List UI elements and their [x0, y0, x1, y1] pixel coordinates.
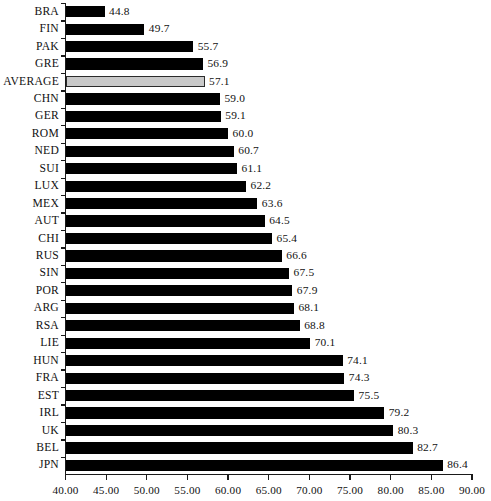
bar-row: SIN67.5: [0, 265, 491, 282]
x-axis-tick-label: 75.00: [337, 485, 363, 496]
bar-row: GER59.1: [0, 108, 491, 125]
bar-value-label: 57.1: [209, 76, 230, 87]
category-label-text: FRA: [36, 372, 59, 384]
y-axis-tick: [61, 300, 65, 301]
bar-row: AVERAGE57.1: [0, 73, 491, 90]
bar-value-label: 59.1: [225, 111, 246, 122]
bar-value-label: 74.1: [347, 355, 368, 366]
y-axis-tick: [61, 335, 65, 336]
bar-fra: [66, 373, 345, 384]
y-axis-tick: [61, 387, 65, 388]
category-label-text: IRL: [40, 407, 59, 419]
y-axis-tick: [61, 125, 65, 126]
category-label-text: NED: [34, 146, 59, 158]
bar-value-label: 82.7: [417, 442, 438, 453]
bar-value-label: 65.4: [277, 233, 298, 244]
category-label-bel: BEL: [0, 439, 59, 456]
category-label-mex: MEX: [0, 195, 59, 212]
bar-row: LIE70.1: [0, 335, 491, 352]
y-axis-tick: [61, 108, 65, 109]
x-axis-tick-label: 40.00: [52, 485, 78, 496]
bar-row: NED60.7: [0, 143, 491, 160]
category-label-text: AUT: [34, 215, 59, 227]
category-label-sui: SUI: [0, 160, 59, 177]
y-axis-tick: [61, 178, 65, 179]
category-label-text: CHI: [38, 233, 59, 245]
bar-rom: [66, 128, 229, 139]
bar-bra: [66, 6, 105, 17]
y-axis-tick: [61, 369, 65, 370]
category-label-text: JPN: [39, 460, 59, 472]
plot-area: BRA44.8FIN49.7PAK55.7GRE56.9AVERAGE57.1C…: [0, 0, 491, 501]
bar-value-label: 63.6: [262, 198, 283, 209]
bar-value-label: 60.0: [233, 128, 254, 139]
bar-value-label: 44.8: [109, 6, 130, 17]
category-label-text: ROM: [32, 128, 59, 140]
category-label-bra: BRA: [0, 3, 59, 20]
y-axis-tick: [61, 73, 65, 74]
x-axis-tick: [309, 475, 310, 480]
y-axis-tick: [61, 55, 65, 56]
bar-row: HUN74.1: [0, 352, 491, 369]
x-axis-tick-label: 90.00: [459, 485, 485, 496]
y-axis-tick: [61, 317, 65, 318]
category-label-text: RSA: [36, 320, 59, 332]
bar-irl: [66, 407, 385, 418]
category-label-text: MEX: [32, 198, 59, 210]
bar-value-label: 66.6: [286, 250, 307, 261]
bar-value-label: 64.5: [269, 215, 290, 226]
bar-row: FIN49.7: [0, 20, 491, 37]
category-label-hun: HUN: [0, 352, 59, 369]
category-label-aut: AUT: [0, 212, 59, 229]
x-axis-tick-label: 85.00: [418, 485, 444, 496]
bar-mex: [66, 198, 258, 209]
x-axis-tick-label: 50.00: [134, 485, 160, 496]
bar-est: [66, 390, 355, 401]
bar-value-label: 49.7: [149, 23, 170, 34]
bar-row: MEX63.6: [0, 195, 491, 212]
category-label-average: AVERAGE: [0, 73, 59, 90]
bar-jpn: [66, 460, 443, 471]
bar-value-label: 75.5: [359, 390, 380, 401]
category-label-text: LIE: [40, 337, 59, 349]
y-axis-tick: [61, 195, 65, 196]
category-label-chn: CHN: [0, 90, 59, 107]
y-axis-tick: [61, 90, 65, 91]
bar-row: POR67.9: [0, 282, 491, 299]
category-label-text: ARG: [34, 303, 59, 315]
bar-value-label: 86.4: [447, 460, 468, 471]
category-label-lux: LUX: [0, 178, 59, 195]
x-axis-tick: [431, 475, 432, 480]
bar-rus: [66, 250, 282, 261]
y-axis-tick: [61, 20, 65, 21]
category-label-ger: GER: [0, 108, 59, 125]
bar-row: FRA74.3: [0, 369, 491, 386]
category-label-text: CHN: [34, 93, 59, 105]
y-axis-tick: [61, 160, 65, 161]
bar-row: LUX62.2: [0, 178, 491, 195]
bar-value-label: 68.1: [298, 303, 319, 314]
y-axis-tick: [61, 212, 65, 213]
bar-sin: [66, 268, 290, 279]
category-label-est: EST: [0, 387, 59, 404]
y-axis-tick: [61, 230, 65, 231]
category-label-text: RUS: [36, 250, 59, 262]
x-axis-tick: [187, 475, 188, 480]
y-axis-tick: [61, 3, 65, 4]
bar-row: IRL79.2: [0, 404, 491, 421]
bar-value-label: 67.5: [294, 268, 315, 279]
y-axis-tick: [61, 247, 65, 248]
bar-value-label: 79.2: [389, 407, 410, 418]
x-axis-tick-label: 70.00: [296, 485, 322, 496]
category-label-chi: CHI: [0, 230, 59, 247]
bar-chn: [66, 93, 220, 104]
category-label-text: SUI: [40, 163, 59, 175]
category-label-rus: RUS: [0, 247, 59, 264]
category-label-arg: ARG: [0, 300, 59, 317]
bar-row: BRA44.8: [0, 3, 491, 20]
category-label-gre: GRE: [0, 55, 59, 72]
y-axis-tick: [61, 422, 65, 423]
category-label-text: PAK: [36, 41, 59, 53]
bar-pak: [66, 41, 194, 52]
y-axis-tick: [61, 352, 65, 353]
